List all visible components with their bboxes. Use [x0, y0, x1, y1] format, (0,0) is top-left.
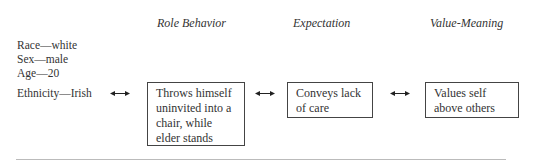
- value-meaning-box: Values self above others: [425, 82, 519, 118]
- expectation-box: Conveys lack of care: [287, 82, 373, 118]
- double-arrow-icon: [390, 90, 410, 97]
- attribute-race: Race—white: [17, 38, 77, 52]
- double-arrow-icon: [255, 90, 275, 97]
- role-behavior-box: Throws himself uninvited into a chair, w…: [147, 82, 245, 146]
- attribute-sex: Sex—male: [17, 52, 68, 66]
- bottom-rule: [16, 159, 506, 160]
- header-role-behavior: Role Behavior: [157, 16, 226, 31]
- header-expectation: Expectation: [293, 16, 350, 31]
- double-arrow-icon: [110, 90, 130, 97]
- header-value-meaning: Value-Meaning: [430, 16, 503, 31]
- attribute-age: Age—20: [17, 66, 59, 80]
- attribute-ethnicity: Ethnicity—Irish: [17, 86, 92, 100]
